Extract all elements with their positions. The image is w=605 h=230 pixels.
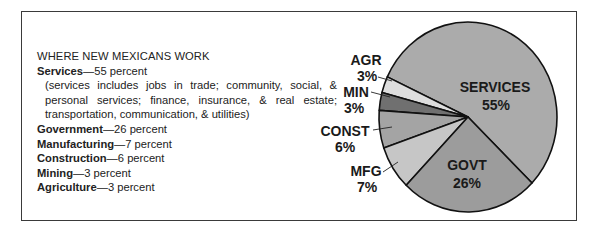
label-services-name: SERVICES <box>460 79 531 95</box>
label-agr-pct: 3% <box>357 68 378 84</box>
pie-chart: SERVICES 55% GOVT 26% AGR 3% MIN 3% CONS… <box>0 0 605 230</box>
label-agr-name: AGR <box>350 52 381 68</box>
label-govt-name: GOVT <box>447 157 487 173</box>
label-min-pct: 3% <box>344 100 365 116</box>
label-govt-pct: 26% <box>453 175 482 191</box>
label-mfg-pct: 7% <box>357 179 378 195</box>
label-services-pct: 55% <box>482 97 511 113</box>
label-min-name: MIN <box>343 84 369 100</box>
label-const-pct: 6% <box>335 139 356 155</box>
label-mfg-name: MFG <box>350 163 381 179</box>
label-const-name: CONST <box>321 123 370 139</box>
